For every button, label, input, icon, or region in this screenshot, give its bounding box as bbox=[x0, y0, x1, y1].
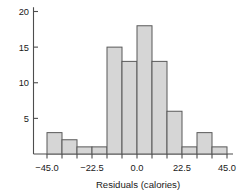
histogram-bar bbox=[212, 147, 227, 154]
histogram-bar bbox=[77, 147, 92, 154]
histogram-bar bbox=[92, 147, 107, 154]
histogram-bar bbox=[107, 47, 122, 154]
y-axis: 5101520 bbox=[19, 7, 38, 154]
plot-area: 5101520 −45.0−22.50.022.545.0 Residuals … bbox=[0, 0, 250, 192]
y-tick-label: 20 bbox=[19, 7, 29, 17]
histogram-bar bbox=[137, 26, 152, 154]
y-tick-label: 10 bbox=[19, 78, 29, 88]
x-tick-label: −45.0 bbox=[35, 163, 59, 173]
histogram-bar bbox=[152, 61, 167, 154]
histogram-bar bbox=[167, 111, 182, 154]
histogram-bar bbox=[122, 61, 137, 154]
x-tick-label: 0.0 bbox=[131, 163, 144, 173]
x-tick-label: 22.5 bbox=[173, 163, 191, 173]
histogram-bar bbox=[47, 133, 62, 154]
x-axis-title: Residuals (calories) bbox=[96, 179, 180, 190]
x-tick-label: 45.0 bbox=[218, 163, 236, 173]
bar-series bbox=[47, 26, 227, 154]
y-tick-label: 15 bbox=[19, 43, 29, 53]
x-axis: −45.0−22.50.022.545.0 bbox=[34, 154, 237, 173]
histogram-bar bbox=[62, 140, 77, 154]
y-tick-label: 5 bbox=[24, 114, 29, 124]
x-tick-label: −22.5 bbox=[80, 163, 104, 173]
histogram-chart: 5101520 −45.0−22.50.022.545.0 Residuals … bbox=[0, 0, 250, 192]
histogram-bar bbox=[182, 147, 197, 154]
histogram-bar bbox=[197, 133, 212, 154]
